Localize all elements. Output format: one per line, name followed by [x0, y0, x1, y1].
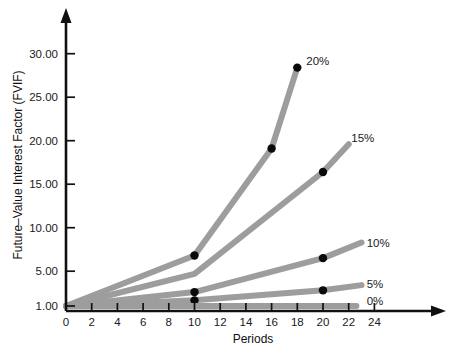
x-tick-label: 8 — [166, 316, 172, 328]
y-tick-label: 1.00 — [36, 300, 58, 312]
x-tick-label: 14 — [240, 316, 253, 328]
y-tick-label: 5.00 — [36, 265, 58, 277]
x-tick-label: 18 — [291, 316, 304, 328]
y-tick-label: 30.00 — [29, 48, 58, 60]
y-tick-label: 10.00 — [29, 222, 58, 234]
series-label-0pct: 0% — [367, 295, 384, 307]
data-point-marker — [319, 168, 327, 176]
x-tick-label: 22 — [342, 316, 355, 328]
series-label-20pct: 20% — [306, 55, 329, 67]
x-tick-label: 0 — [63, 316, 69, 328]
data-point-marker — [267, 144, 275, 152]
fvif-line-chart: 0246810121416182022241.005.0010.0015.002… — [0, 0, 454, 351]
series-label-15pct: 15% — [351, 132, 374, 144]
series-label-layer: 20%15%10%5%0% — [306, 55, 389, 307]
x-tick-label: 10 — [188, 316, 201, 328]
data-point-marker — [319, 254, 327, 262]
x-axis-arrow — [431, 306, 446, 317]
data-point-marker — [190, 251, 198, 259]
chart-container: 0246810121416182022241.005.0010.0015.002… — [0, 0, 454, 351]
axis-layer — [61, 8, 447, 317]
series-line-20pct — [66, 68, 297, 306]
y-tick-label: 25.00 — [29, 91, 58, 103]
x-tick-label: 20 — [317, 316, 330, 328]
data-point-marker — [319, 286, 327, 294]
x-tick-label: 24 — [368, 316, 381, 328]
x-tick-label: 16 — [265, 316, 278, 328]
x-tick-label: 2 — [88, 316, 94, 328]
data-point-marker — [293, 63, 301, 71]
series-label-5pct: 5% — [367, 278, 384, 290]
y-tick-label: 20.00 — [29, 135, 58, 147]
data-point-marker — [190, 288, 198, 296]
x-tick-label: 6 — [140, 316, 146, 328]
series-label-10pct: 10% — [367, 237, 390, 249]
series-layer — [66, 63, 362, 306]
y-axis-arrow — [61, 8, 72, 23]
x-axis-title: Periods — [233, 332, 274, 346]
series-line-15pct — [66, 144, 349, 306]
y-axis-title: Future–Value Interest Factor (FVIF) — [11, 70, 25, 259]
y-tick-label: 15.00 — [29, 178, 58, 190]
tick-layer: 0246810121416182022241.005.0010.0015.002… — [29, 48, 381, 328]
x-tick-label: 4 — [114, 316, 121, 328]
x-tick-label: 12 — [214, 316, 227, 328]
